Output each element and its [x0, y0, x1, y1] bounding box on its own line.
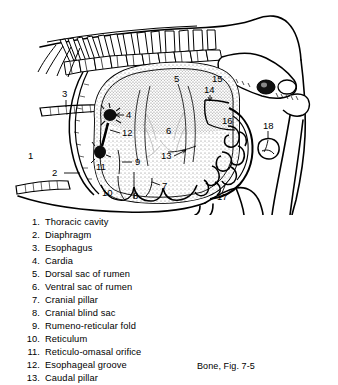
legend-item-label: Reticulo-omasal orifice — [45, 346, 141, 359]
legend-item-number: 12. — [25, 359, 40, 372]
legend-item-label: Ventral sac of rumen — [45, 281, 132, 294]
legend-item-number: 2. — [25, 229, 40, 242]
legend-item-label: Caudal pillar — [45, 372, 98, 385]
legend-item: 13. Caudal pillar — [25, 372, 141, 385]
legend-item: 1. Thoracic cavity — [25, 216, 141, 229]
legend-item-number: 8. — [25, 307, 40, 320]
figure-label-13: 13 — [161, 150, 172, 161]
legend-item: 10. Reticulum — [25, 333, 141, 346]
figure-source-caption: Bone, Fig. 7-5 — [197, 361, 255, 371]
figure-label-4: 4 — [126, 109, 131, 120]
legend-item: 8. Cranial blind sac — [25, 307, 141, 320]
figure-label-5: 5 — [174, 73, 179, 84]
legend-item-label: Esophagus — [45, 242, 92, 255]
legend-item: 5. Dorsal sac of rumen — [25, 268, 141, 281]
figure-label-12: 12 — [122, 127, 133, 138]
figure-label-8: 8 — [133, 190, 138, 201]
legend-item-number: 9. — [25, 320, 40, 333]
figure-label-7: 7 — [162, 180, 167, 191]
legend-item-label: Dorsal sac of rumen — [45, 268, 130, 281]
legend-item-number: 6. — [25, 281, 40, 294]
legend-item-label: Cranial pillar — [45, 294, 98, 307]
figure-legend: 1. Thoracic cavity 2. Diaphragm 3. Esoph… — [0, 213, 338, 376]
figure-label-10: 10 — [102, 187, 113, 198]
figure-label-15: 15 — [212, 73, 223, 84]
legend-item-label: Cranial blind sac — [45, 307, 115, 320]
legend-item: 9. Rumeno-reticular fold — [25, 320, 141, 333]
anatomy-illustration: 1 2 3 4 5 6 7 8 9 10 11 12 13 14 15 16 1… — [0, 0, 338, 215]
figure-label-17: 17 — [217, 191, 228, 202]
figure-label-6: 6 — [166, 125, 171, 136]
legend-item-number: 13. — [25, 372, 40, 385]
figure-label-2: 2 — [52, 167, 57, 178]
legend-item-label: Diaphragm — [45, 229, 91, 242]
legend-list: 1. Thoracic cavity 2. Diaphragm 3. Esoph… — [25, 216, 141, 385]
legend-item-label: Reticulum — [45, 333, 87, 346]
figure-label-11: 11 — [96, 161, 106, 172]
cardia-marker — [104, 109, 117, 121]
figure-label-1: 1 — [28, 150, 33, 161]
legend-item-label: Cardia — [45, 255, 73, 268]
reticulo-omasal-orifice-marker — [94, 146, 106, 159]
legend-item: 7. Cranial pillar — [25, 294, 141, 307]
figure-label-3: 3 — [62, 88, 67, 99]
figure-label-18: 18 — [263, 120, 274, 131]
legend-item-label: Thoracic cavity — [45, 216, 109, 229]
legend-item: 12. Esophageal groove — [25, 359, 141, 372]
organ-18 — [258, 138, 279, 159]
legend-item-number: 5. — [25, 268, 40, 281]
legend-item: 6. Ventral sac of rumen — [25, 281, 141, 294]
legend-item-number: 3. — [25, 242, 40, 255]
legend-item-number: 7. — [25, 294, 40, 307]
figure-label-9: 9 — [135, 156, 140, 167]
figure-label-14: 14 — [204, 84, 215, 95]
figure-label-16: 16 — [222, 115, 233, 126]
legend-item-number: 4. — [25, 255, 40, 268]
legend-item-label: Esophageal groove — [45, 359, 127, 372]
legend-item-label: Rumeno-reticular fold — [45, 320, 136, 333]
legend-item: 3. Esophagus — [25, 242, 141, 255]
legend-item-number: 11. — [25, 346, 40, 359]
legend-item-number: 10. — [25, 333, 40, 346]
legend-item-number: 1. — [25, 216, 40, 229]
legend-item: 11. Reticulo-omasal orifice — [25, 346, 141, 359]
legend-item: 4. Cardia — [25, 255, 141, 268]
legend-item: 2. Diaphragm — [25, 229, 141, 242]
